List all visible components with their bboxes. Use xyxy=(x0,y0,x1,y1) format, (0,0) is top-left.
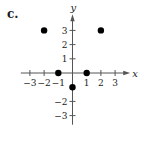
x-tick-label: −2 xyxy=(37,78,50,88)
data-point xyxy=(84,70,90,76)
scatter-plot: xy−3−2−1123−3−2123 xyxy=(0,0,144,141)
x-tick-label: 2 xyxy=(98,78,104,88)
y-tick-label: 1 xyxy=(62,54,68,64)
y-axis-arrow-icon xyxy=(70,14,74,21)
y-axis-label: y xyxy=(70,2,77,13)
x-axis-arrow-icon xyxy=(123,71,130,75)
x-tick-label: 3 xyxy=(112,78,118,88)
y-tick-label: 3 xyxy=(62,26,68,36)
data-point xyxy=(69,84,75,90)
data-point xyxy=(41,27,47,33)
y-tick-label: −2 xyxy=(54,97,67,107)
data-point xyxy=(55,70,61,76)
y-tick-label: −3 xyxy=(54,111,68,121)
x-tick-label: 1 xyxy=(84,78,90,88)
y-tick-label: 2 xyxy=(62,40,68,50)
x-axis-label: x xyxy=(132,68,138,79)
x-tick-label: −1 xyxy=(52,78,65,88)
x-tick-label: −3 xyxy=(23,78,37,88)
data-point xyxy=(98,27,104,33)
